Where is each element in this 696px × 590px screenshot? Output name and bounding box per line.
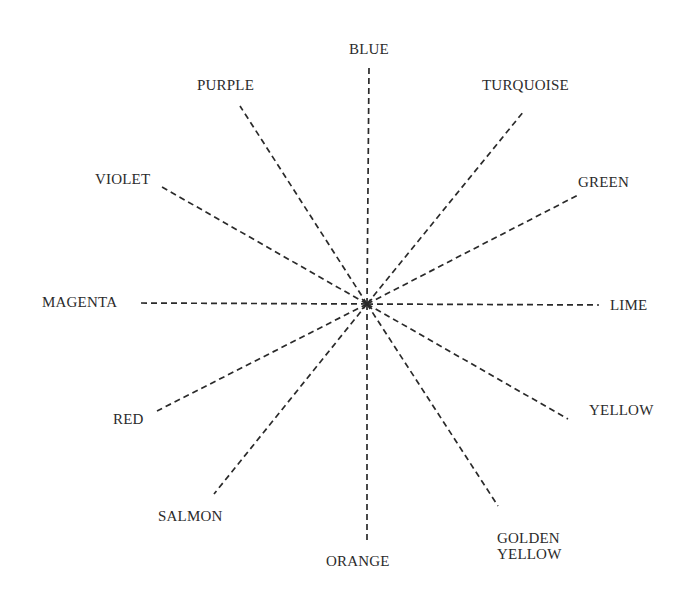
spoke-line-yellow: [367, 304, 568, 419]
spoke-line-magenta: [139, 303, 367, 304]
spoke-line-purple: [240, 106, 367, 304]
spoke-line-violet: [162, 187, 367, 304]
label-yellow: YELLOW: [589, 402, 654, 418]
spoke-line-lime: [367, 304, 599, 305]
label-red: RED: [113, 411, 144, 427]
label-lime: LIME: [610, 297, 647, 313]
label-orange: ORANGE: [326, 553, 390, 569]
spoke-line-blue: [367, 68, 369, 304]
label-magenta: MAGENTA: [42, 294, 117, 310]
label-golden-yellow-line: YELLOW: [497, 546, 562, 562]
spoke-line-salmon: [214, 304, 367, 494]
label-golden-yellow: GOLDENYELLOW: [497, 530, 562, 562]
label-green: GREEN: [578, 174, 629, 190]
label-blue: BLUE: [349, 41, 389, 57]
label-salmon: SALMON: [158, 508, 223, 524]
label-turquoise: TURQUOISE: [482, 77, 569, 93]
spoke-lines: [139, 68, 599, 542]
label-violet: VIOLET: [95, 171, 150, 187]
spoke-line-red: [157, 304, 367, 411]
spoke-line-golden-yellow: [367, 304, 498, 506]
spoke-line-turquoise: [367, 111, 524, 304]
label-purple: PURPLE: [197, 77, 254, 93]
label-golden-yellow-line: GOLDEN: [497, 530, 562, 546]
spoke-line-green: [367, 194, 580, 304]
